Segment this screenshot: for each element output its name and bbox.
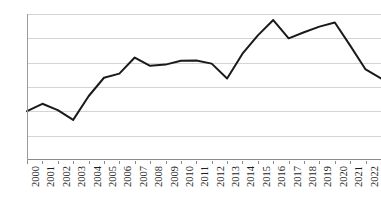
x-tick-mark [289,161,290,164]
x-tick-label: 2002 [62,166,73,187]
x-tick-mark [242,161,243,164]
x-tick-mark [73,161,74,164]
x-tick-mark [227,161,228,164]
x-tick-label: 2015 [262,166,273,187]
x-tick-label: 2014 [246,166,257,187]
x-tick-mark [258,161,259,164]
zero-axis-line [27,159,381,160]
x-tick-label: 2000 [31,166,42,187]
x-tick-mark [196,161,197,164]
x-tick-label: 2011 [200,166,211,187]
x-tick-mark [42,161,43,164]
x-tick-label: 2016 [277,166,288,187]
x-tick-mark [304,161,305,164]
x-tick-mark [212,161,213,164]
x-tick-mark [335,161,336,164]
x-tick-mark [181,161,182,164]
x-tick-label: 2004 [93,166,104,187]
x-tick-mark [104,161,105,164]
plot-area [27,14,381,160]
x-tick-label: 2010 [185,166,196,187]
x-tick-label: 2017 [293,166,304,187]
x-tick-mark [135,161,136,164]
x-tick-label: 2020 [339,166,350,187]
x-tick-label: 2008 [154,166,165,187]
x-tick-label: 2018 [308,166,319,187]
x-tick-mark [166,161,167,164]
x-tick-mark [273,161,274,164]
x-axis-labels: 2000200120022003200420052006200720082009… [27,161,381,216]
x-tick-mark [58,161,59,164]
x-tick-label: 2013 [231,166,242,187]
x-tick-label: 2003 [77,166,88,187]
x-tick-mark [150,161,151,164]
x-tick-label: 2005 [108,166,119,187]
x-tick-mark [366,161,367,164]
x-tick-label: 2007 [139,166,150,187]
x-tick-mark [119,161,120,164]
x-tick-mark [27,161,28,164]
x-tick-label: 2001 [46,166,57,187]
x-tick-label: 2021 [354,166,365,187]
x-tick-label: 2022 [370,166,381,187]
series-line [27,14,381,160]
x-tick-mark [350,161,351,164]
x-tick-label: 2006 [123,166,134,187]
y-axis-line [27,14,28,161]
x-tick-mark [319,161,320,164]
x-tick-label: 2019 [323,166,334,187]
x-tick-label: 2012 [216,166,227,187]
x-tick-label: 2009 [170,166,181,187]
x-tick-mark [89,161,90,164]
line-chart: 00.10.20.30.40.50.6 20002001200220032004… [0,0,381,216]
series-polyline [27,20,381,120]
